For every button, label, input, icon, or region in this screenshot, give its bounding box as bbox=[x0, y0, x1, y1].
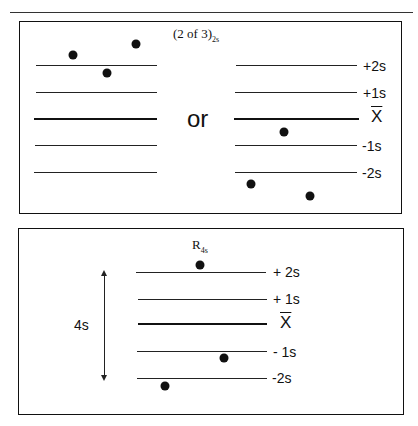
right-line-minus1s bbox=[235, 145, 357, 146]
panel1-title: (2 of 3)2s bbox=[173, 26, 219, 44]
data-point bbox=[196, 261, 205, 270]
top-rule bbox=[10, 12, 413, 13]
data-point bbox=[69, 51, 78, 60]
right-line-plus2s bbox=[236, 65, 357, 66]
data-point bbox=[280, 128, 289, 137]
label-minus1s: -1s bbox=[362, 139, 381, 153]
label-mean: X bbox=[280, 316, 291, 330]
label-minus2s: -2s bbox=[272, 371, 291, 385]
label-plus2s: + 2s bbox=[273, 265, 300, 279]
panel2-title: R4s bbox=[192, 237, 208, 255]
left-line-plus2s bbox=[36, 65, 157, 66]
line-plus1s bbox=[138, 299, 267, 300]
line-minus2s bbox=[137, 378, 267, 379]
range-label: 4s bbox=[74, 318, 89, 332]
line-mean bbox=[138, 323, 267, 325]
data-point bbox=[132, 40, 141, 49]
left-line-minus2s bbox=[34, 172, 157, 173]
label-mean: X bbox=[371, 110, 382, 124]
data-point bbox=[161, 382, 170, 391]
label-minus1s: - 1s bbox=[273, 345, 296, 359]
arrow-down-icon bbox=[101, 375, 107, 381]
line-minus1s bbox=[137, 351, 267, 352]
right-line-minus2s bbox=[235, 172, 357, 173]
range-arrow-line bbox=[104, 274, 105, 376]
label-plus2s: +2s bbox=[363, 59, 386, 73]
data-point bbox=[103, 69, 112, 78]
arrow-up-icon bbox=[101, 270, 107, 276]
right-line-mean bbox=[234, 118, 359, 120]
line-plus2s bbox=[136, 272, 266, 273]
left-line-plus1s bbox=[36, 92, 157, 93]
right-line-plus1s bbox=[235, 92, 357, 93]
label-minus2s: -2s bbox=[362, 166, 381, 180]
left-line-mean bbox=[34, 118, 157, 120]
data-point bbox=[306, 192, 315, 201]
label-plus1s: +1s bbox=[363, 86, 386, 100]
data-point bbox=[220, 354, 229, 363]
left-line-minus1s bbox=[35, 145, 157, 146]
data-point bbox=[247, 180, 256, 189]
or-connector: or bbox=[187, 107, 208, 131]
label-plus1s: + 1s bbox=[273, 292, 300, 306]
